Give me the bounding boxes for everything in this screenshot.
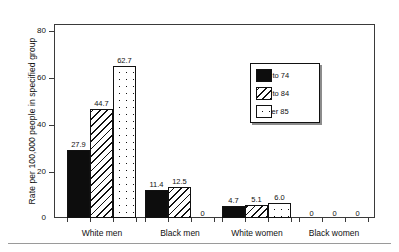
y-tick-label-20: 20 [30,168,46,176]
x-tick-mark-16 [368,218,369,222]
x-tick-mark-14 [322,218,323,222]
x-tick-mark-2 [90,218,91,222]
x-tick-mark-9 [222,218,223,222]
bar-value-black-women-over-85: 0 [336,209,379,218]
x-tick-mark-11 [268,218,269,222]
x-tick-mark-15 [345,218,346,222]
legend-swatch-hatch-icon [256,87,272,100]
bar-black-men-65-74 [145,190,168,218]
bar-value-white-women-over-85: 6.0 [258,193,301,202]
bar-chart-figure: Rate per 100,000 people in specified gro… [0,0,399,252]
bar-value-white-men-over-85: 62.7 [103,56,146,65]
x-group-label-black-men: Black men [140,228,220,238]
y-tick-label-80: 80 [30,27,46,35]
x-group-label-black-women: Black women [294,228,374,238]
x-tick-mark-6 [168,218,169,222]
x-tick-mark-8 [214,218,215,222]
x-tick-mark-5 [145,218,146,222]
bar-white-men-over-85 [113,66,136,218]
bottom-divider [8,243,391,244]
y-tick-label-0: 0 [30,214,46,222]
legend-item-75-84: 75 to 84 [256,86,318,101]
bar-white-men-75-84 [90,109,113,218]
legend: 65 to 74 75 to 84 Over 85 [250,63,320,123]
x-tick-mark-13 [299,218,300,222]
legend-item-over-85: Over 85 [256,104,318,119]
bar-white-women-over-85 [268,203,291,218]
x-tick-mark-7 [191,218,192,222]
bar-white-men-65-74 [67,150,90,218]
y-tick-label-40: 40 [30,121,46,129]
x-tick-mark-12 [291,218,292,222]
legend-item-65-74: 65 to 74 [256,68,318,83]
bar-white-women-75-84 [245,205,268,218]
x-tick-mark-10 [245,218,246,222]
x-group-label-white-women: White women [217,228,297,238]
bar-value-black-men-75-84: 12.5 [158,177,201,186]
x-group-label-white-men: White men [62,228,142,238]
legend-swatch-solid-icon [256,69,272,82]
x-tick-mark-3 [113,218,114,222]
legend-swatch-dots-icon [256,105,272,118]
y-tick-label-60: 60 [30,74,46,82]
bar-value-black-men-over-85: 0 [181,209,224,218]
x-tick-mark-1 [67,218,68,222]
bar-white-women-65-74 [222,206,245,218]
x-tick-mark-4 [136,218,137,222]
